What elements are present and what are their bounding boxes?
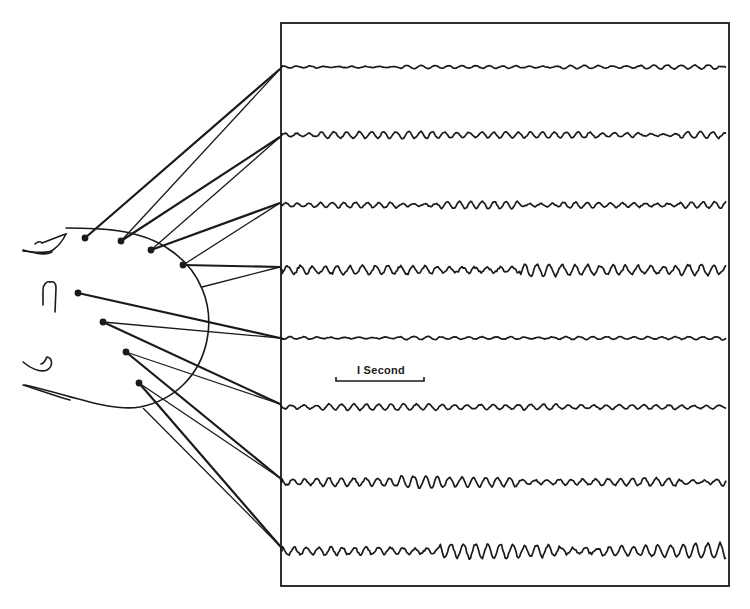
lead-line — [121, 137, 280, 241]
eeg-trace-channel-2 — [280, 131, 726, 139]
eeg-traces — [280, 65, 726, 559]
eye-mark — [43, 282, 50, 305]
eeg-trace-channel-1 — [280, 65, 726, 69]
lead-line — [103, 322, 280, 338]
lead-line — [121, 69, 280, 241]
eeg-trace-channel-5 — [280, 336, 726, 340]
scalp-outline — [25, 228, 209, 408]
scale-bar — [336, 377, 424, 381]
electrode-dot — [75, 290, 82, 297]
electrode-dot — [180, 262, 187, 269]
electrode-dot — [118, 238, 125, 245]
record-frame — [281, 23, 729, 586]
electrode-dot — [123, 349, 130, 356]
lead-line — [78, 293, 280, 338]
nose-outline — [23, 234, 66, 252]
lead-line — [151, 203, 280, 250]
eeg-trace-channel-4 — [280, 264, 726, 277]
lead-line — [103, 322, 280, 404]
electrode-leads — [78, 69, 280, 546]
eeg-trace-channel-6 — [280, 404, 726, 411]
head-drawing — [23, 228, 209, 408]
electrode-dot — [100, 319, 107, 326]
eeg-figure — [0, 0, 750, 609]
electrode-dot — [148, 247, 155, 254]
lead-line — [151, 137, 280, 250]
lead-line — [143, 408, 280, 546]
electrode-dot — [82, 235, 89, 242]
eeg-trace-channel-8 — [280, 542, 726, 559]
ear-outline — [23, 357, 52, 371]
lead-line — [202, 267, 280, 287]
jaw-line — [23, 385, 70, 400]
eeg-trace-channel-7 — [280, 476, 726, 488]
eeg-trace-channel-3 — [280, 201, 726, 209]
electrode-dot — [136, 380, 143, 387]
scale-bar-label: I Second — [338, 364, 424, 376]
lead-line — [183, 265, 280, 267]
electrodes — [75, 235, 187, 387]
eye-mark-2 — [50, 282, 56, 312]
